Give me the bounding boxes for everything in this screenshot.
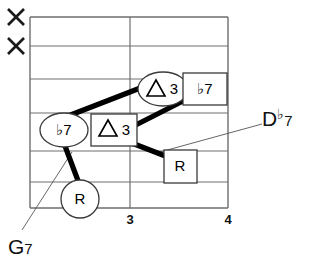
fret-number-row: 3 4 [126, 212, 232, 227]
marker-root-box[interactable]: R [164, 150, 197, 183]
marker-maj3-ellipse-digit: 3 [170, 80, 178, 97]
marker-ellipse-shape [138, 72, 188, 106]
connector-flat7-to-maj3-ellipse [68, 85, 148, 116]
marker-flat7-left-label: ♭7 [56, 121, 71, 138]
marker-maj3-box-digit: 3 [122, 121, 130, 138]
chord-label-left-root: G [8, 235, 24, 258]
marker-maj3-box[interactable]: 3 [91, 114, 137, 146]
marker-root-circle[interactable]: R [61, 180, 99, 218]
marker-flat7-box[interactable]: ♭7 [183, 73, 227, 105]
chord-label-right-quality: 7 [284, 112, 292, 129]
string-lines [30, 17, 228, 208]
chord-label-right-accidental: ♭ [277, 106, 284, 122]
chord-label-right-root: D [262, 107, 277, 130]
mute-x-icon-string-2 [8, 38, 24, 54]
marker-maj3-ellipse[interactable]: 3 [138, 72, 188, 106]
marker-flat7-left[interactable]: ♭7 [40, 113, 88, 147]
fret-number-4: 4 [224, 212, 232, 227]
muted-string-markers [8, 9, 24, 54]
marker-flat7-box-label: ♭7 [197, 80, 212, 97]
chord-diagram-canvas: ♭7 3 3 ♭7 R R 3 [0, 0, 311, 268]
fret-number-3: 3 [126, 212, 133, 227]
chord-label-left-quality: 7 [24, 240, 32, 257]
leader-line-dflat7 [160, 124, 262, 152]
fretboard-svg: ♭7 3 3 ♭7 R R 3 [0, 0, 311, 268]
chord-label-left: G7 [8, 236, 33, 257]
mute-x-icon-string-1 [8, 9, 24, 25]
marker-root-box-label: R [175, 157, 186, 174]
marker-root-circle-label: R [75, 190, 86, 207]
chord-label-right: D♭7 [262, 108, 293, 129]
